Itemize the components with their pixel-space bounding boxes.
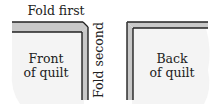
fold-first-band <box>12 22 88 32</box>
front-line1: Front <box>14 52 78 66</box>
front-of-quilt-label: Front of quilt <box>14 52 78 80</box>
fold-second-band <box>82 27 88 100</box>
front-line2: of quilt <box>14 66 78 80</box>
back-vertical-band <box>127 22 133 100</box>
back-horizontal-band <box>127 22 208 28</box>
back-of-quilt-label: Back of quilt <box>140 52 204 80</box>
fold-first-label: Fold first <box>26 4 86 18</box>
fold-second-label: Fold second <box>92 20 106 100</box>
back-line1: Back <box>140 52 204 66</box>
back-line2: of quilt <box>140 66 204 80</box>
